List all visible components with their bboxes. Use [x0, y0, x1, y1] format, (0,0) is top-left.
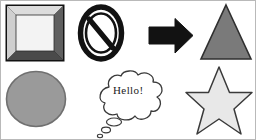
beveled-square-icon — [5, 4, 65, 62]
prohibition-sign-shape[interactable] — [77, 3, 125, 63]
arrow-right-icon — [148, 18, 194, 54]
no-entry-icon — [77, 3, 125, 63]
triangle-shape[interactable] — [199, 3, 253, 61]
triangle-icon — [199, 3, 253, 61]
thought-bubble-shape[interactable]: Hello! — [93, 67, 167, 139]
right-arrow-shape[interactable] — [148, 18, 194, 54]
beveled-square-shape[interactable] — [5, 4, 65, 62]
thought-bubble-icon — [93, 67, 167, 139]
thought-bubble-text: Hello! — [113, 84, 144, 96]
ellipse-shape[interactable] — [5, 70, 67, 128]
clipart-canvas: Hello! — [0, 0, 256, 140]
ellipse-icon — [5, 70, 67, 128]
five-pointed-star-icon — [184, 65, 254, 137]
star-shape[interactable] — [184, 65, 254, 137]
